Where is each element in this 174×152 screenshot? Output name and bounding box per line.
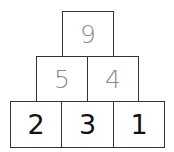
cell-value: 4 <box>105 65 121 94</box>
cell-value: 2 <box>27 109 44 140</box>
pyramid-cell-middle-right: 4 <box>87 56 139 102</box>
cell-value: 9 <box>80 20 96 49</box>
pyramid-cell-middle-left: 5 <box>36 56 88 102</box>
cell-value: 3 <box>79 109 96 140</box>
pyramid-cell-top: 9 <box>62 11 114 57</box>
cell-value: 1 <box>130 109 147 140</box>
pyramid-cell-bottom-left: 2 <box>10 101 62 148</box>
pyramid-cell-bottom-middle: 3 <box>61 101 114 148</box>
pyramid-cell-bottom-right: 1 <box>113 101 165 148</box>
cell-value: 5 <box>54 65 70 94</box>
